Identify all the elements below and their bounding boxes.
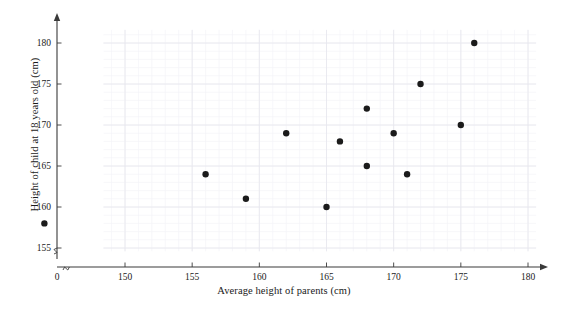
axis-ticks (57, 43, 528, 267)
data-point (404, 171, 410, 177)
minor-gridlines (104, 30, 537, 251)
data-point (41, 220, 47, 226)
svg-text:175: 175 (454, 272, 469, 282)
data-point (243, 196, 249, 202)
data-point (202, 171, 208, 177)
data-point (283, 130, 289, 136)
data-point (364, 163, 370, 169)
svg-text:155: 155 (185, 272, 200, 282)
major-gridlines (104, 30, 537, 251)
svg-text:165: 165 (319, 272, 334, 282)
data-point (471, 40, 477, 46)
data-point (337, 138, 343, 144)
data-point (364, 105, 370, 111)
plot-canvas: 0150155160165170175180155160165170175180 (0, 0, 568, 310)
svg-text:150: 150 (118, 272, 133, 282)
scatter-plot-figure: 0150155160165170175180155160165170175180… (0, 0, 568, 310)
y-axis-title: Height of child at 18 years old (cm) (29, 15, 40, 255)
svg-text:170: 170 (387, 272, 402, 282)
svg-text:160: 160 (252, 272, 267, 282)
x-axis-title: Average height of parents (cm) (0, 285, 568, 296)
svg-text:0: 0 (55, 272, 60, 282)
data-point (417, 81, 423, 87)
data-point (323, 204, 329, 210)
svg-text:180: 180 (521, 272, 536, 282)
data-point (458, 122, 464, 128)
data-point (390, 130, 396, 136)
